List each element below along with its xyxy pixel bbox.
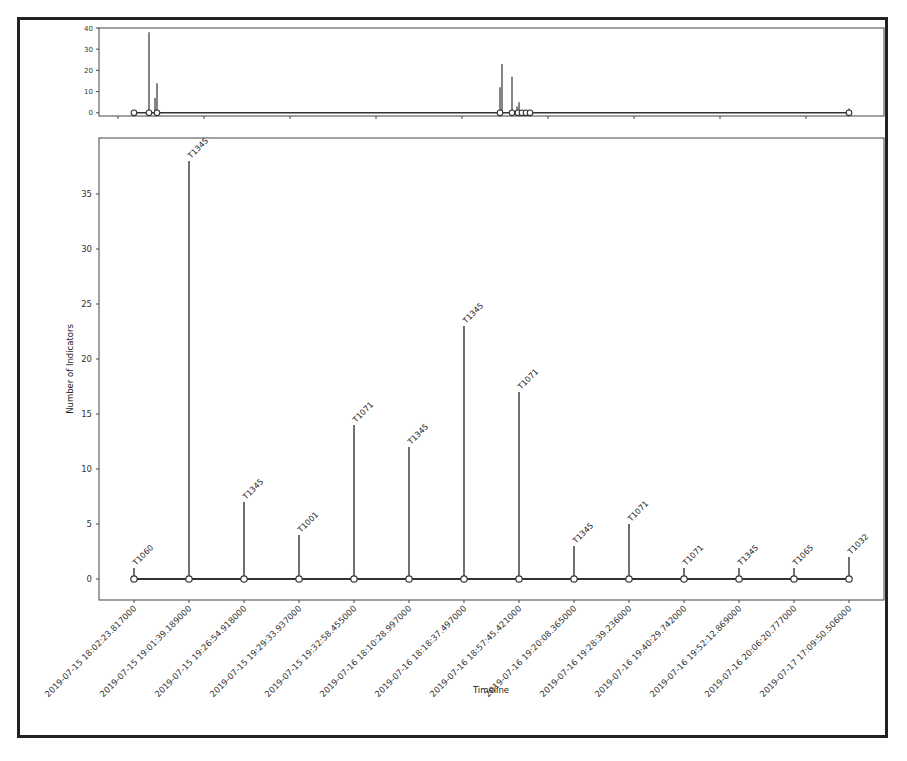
main-subplot: 05101520253035T10602019-07-15 18:02:23.8… (43, 136, 884, 699)
overview-marker (509, 110, 515, 116)
x-tick-label: 2019-07-16 19:40:29.742000 (593, 603, 689, 699)
x-tick-label: 2019-07-15 19:29:33.937000 (208, 603, 304, 699)
overview-marker (527, 110, 533, 116)
stem-marker (241, 576, 247, 582)
stem-annotation: T1071 (515, 367, 540, 392)
x-tick-label: 2019-07-16 19:52:12.869000 (648, 603, 744, 699)
stem-annotation: T1065 (790, 543, 815, 568)
overview-marker (146, 110, 152, 116)
y-tick-label: 40 (84, 25, 93, 33)
y-tick-label: 35 (81, 189, 92, 199)
x-tick-label: 2019-07-15 18:02:23.817000 (43, 603, 139, 699)
main-axes-box (99, 138, 884, 600)
stem-annotation: T1060 (130, 543, 155, 568)
y-tick-label: 10 (81, 464, 92, 474)
stem-marker (846, 576, 852, 582)
stem-annotation: T1345 (240, 477, 265, 502)
stem-annotation: T1071 (680, 543, 705, 568)
x-tick-label: 2019-07-17 17:09:50.506000 (758, 603, 854, 699)
stem-marker (461, 576, 467, 582)
chart-canvas: 010203040 05101520253035T10602019-07-15 … (0, 0, 907, 761)
stem-marker (736, 576, 742, 582)
y-tick-label: 25 (81, 299, 92, 309)
stem-marker (351, 576, 357, 582)
y-axis-label: Number of Indicators (65, 324, 75, 414)
stem-marker (791, 576, 797, 582)
stem-marker (186, 576, 192, 582)
stem-annotation: T1345 (570, 521, 595, 546)
y-tick-label: 0 (89, 109, 93, 117)
stem-annotation: T1001 (295, 510, 320, 535)
stem-annotation: T1345 (405, 422, 430, 447)
overview-marker (846, 110, 852, 116)
stem-marker (681, 576, 687, 582)
stem-marker (406, 576, 412, 582)
stem-marker (516, 576, 522, 582)
y-tick-label: 0 (87, 574, 92, 584)
stem-annotation: T1345 (460, 301, 485, 326)
stem-marker (131, 576, 137, 582)
overview-axes-box (99, 28, 884, 116)
x-tick-label: 2019-07-16 19:28:39.236000 (538, 603, 634, 699)
stem-marker (296, 576, 302, 582)
overview-marker (154, 110, 160, 116)
stem-annotation: T1345 (735, 543, 760, 568)
x-tick-label: 2019-07-16 20:06:20.777000 (703, 603, 799, 699)
y-tick-label: 20 (84, 67, 93, 75)
y-tick-label: 20 (81, 354, 92, 364)
stem-annotation: T1071 (625, 499, 650, 524)
overview-subplot: 010203040 (84, 25, 884, 120)
x-axis-label: Timeline (472, 685, 509, 695)
stem-annotation: T1032 (845, 532, 870, 557)
x-tick-label: 2019-07-15 19:01:39.189000 (98, 603, 194, 699)
x-tick-label: 2019-07-15 19:26:54.918000 (153, 603, 249, 699)
y-tick-label: 10 (84, 88, 93, 96)
x-tick-label: 2019-07-15 19:32:58.455000 (263, 603, 359, 699)
y-tick-label: 15 (81, 409, 92, 419)
x-tick-label: 2019-07-16 18:10:28.997000 (318, 603, 414, 699)
stem-marker (571, 576, 577, 582)
y-tick-label: 30 (84, 46, 93, 54)
y-tick-label: 30 (81, 244, 92, 254)
x-tick-label: 2019-07-16 18:18:37.497000 (373, 603, 469, 699)
stem-annotation: T1345 (185, 136, 210, 161)
stem-annotation: T1071 (350, 400, 375, 425)
overview-marker (497, 110, 503, 116)
stem-marker (626, 576, 632, 582)
overview-marker (131, 110, 137, 116)
y-tick-label: 5 (87, 519, 92, 529)
